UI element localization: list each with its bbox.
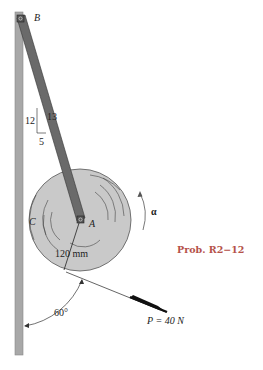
diagram-canvas [0,0,263,370]
force-label: P = 40 N [147,315,184,326]
pin-b [17,15,24,22]
alpha-arrow [140,193,145,230]
slope-hyp: 13 [47,111,57,122]
label-b: B [34,12,40,23]
radius-label: 120 mm [55,248,88,259]
wall [15,12,23,355]
slope-run: 5 [39,136,44,147]
pin-a [77,216,84,223]
label-c: C [29,216,36,227]
slope-rise: 12 [25,115,35,126]
problem-label: Prob. R2−12 [177,244,244,255]
label-a: A [89,218,95,229]
alpha-label: α [151,206,157,217]
angle-arc [25,280,82,326]
angle-label: 60° [54,307,68,318]
